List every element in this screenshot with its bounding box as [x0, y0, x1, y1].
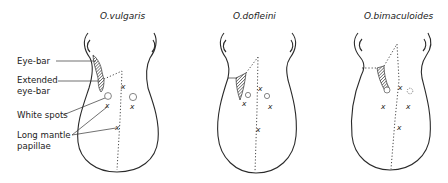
leader-papillae-lower [72, 128, 116, 135]
midline-dotted-dofleini [255, 57, 258, 172]
leader-papillae-upper [72, 107, 107, 135]
panel-title-dofleini: O.dofleini [233, 11, 276, 21]
eye-left-bimaculoides [359, 39, 362, 51]
eye-left-dofleini [223, 40, 226, 52]
octopus-body-pattern-diagram: O.vulgaris x x x x Eye-bar Extended eye-… [0, 0, 448, 183]
panel-title-vulgaris: O.vulgaris [100, 11, 146, 21]
panel-o-vulgaris: O.vulgaris x x x x [78, 11, 159, 172]
panel-title-bimaculoides: O.bimaculoides [364, 11, 433, 21]
eye-left-vulgaris [87, 40, 90, 52]
diagonal-dotted-dofleini [246, 57, 258, 73]
papilla-mark: x [241, 99, 247, 108]
papilla-mark: x [120, 82, 126, 91]
mantle-outline-dofleini [218, 33, 297, 173]
papilla-mark: x [397, 83, 403, 92]
label-extended-eye-bar-2: eye-bar [17, 86, 50, 96]
midline-dotted-bimaculoides [391, 44, 399, 169]
panel-o-bimaculoides: O.bimaculoides x x x x [351, 11, 433, 170]
white-spot-right-bimaculoides [407, 88, 413, 94]
papilla-mark: x [405, 102, 411, 111]
papilla-mark: x [257, 84, 263, 93]
label-long-mantle-2: papillae [17, 141, 51, 151]
white-spot-right-dofleini [264, 93, 269, 98]
midline-dotted-vulgaris [104, 71, 122, 170]
papilla-mark: x [267, 102, 273, 111]
panel-o-dofleini: O.dofleini x x x x [218, 11, 297, 173]
eye-right-dofleini [290, 40, 293, 52]
white-spot-left-bimaculoides [384, 87, 390, 93]
eye-right-bimaculoides [423, 39, 426, 51]
label-eye-bar: Eye-bar [17, 56, 51, 66]
white-spot-left-dofleini [245, 92, 250, 97]
white-spot-left-vulgaris [105, 93, 112, 100]
papilla-mark: x [255, 125, 261, 134]
papilla-mark: x [396, 123, 402, 132]
leader-white-spots [63, 98, 105, 115]
eye-bar-dofleini [236, 73, 246, 100]
label-extended-eye-bar-1: Extended [17, 75, 58, 85]
white-spot-right-vulgaris [129, 93, 136, 100]
papilla-mark: x [114, 123, 120, 132]
label-long-mantle-1: Long mantle [17, 130, 71, 140]
papilla-mark: x [129, 102, 135, 111]
diagonal-dotted-bimaculoides [384, 44, 397, 66]
eye-bar-vulgaris [93, 55, 104, 92]
papilla-mark: x [380, 102, 386, 111]
label-white-spots: White spots [17, 110, 68, 120]
mantle-outline-bimaculoides [351, 33, 430, 170]
